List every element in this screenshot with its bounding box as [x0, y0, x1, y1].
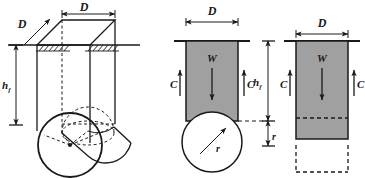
ground-hatching-left [36, 45, 70, 51]
panel-free-body-circular: D r W C C [170, 4, 276, 172]
dimension-width-top-left [62, 10, 115, 18]
cylinder-back-top-arc [62, 107, 114, 133]
cylinder-body [62, 127, 131, 163]
cylinder-center-dot [68, 143, 72, 147]
label-C-left-middle: C [170, 78, 178, 90]
prism-top-face [37, 20, 115, 45]
label-r-dimension-middle: r [272, 131, 276, 142]
label-W-right: W [317, 52, 328, 64]
label-hf-middle: hf [253, 76, 262, 91]
label-hf-left: hf [2, 79, 11, 94]
dimension-width-top-right [296, 30, 348, 38]
label-C-right-right: C [357, 78, 365, 90]
cylinder-hidden-radii [44, 131, 88, 145]
dimension-height-middle [262, 41, 275, 121]
engineering-diagram: D D hf D r W [0, 0, 365, 178]
panel-perspective-view: D D hf [2, 0, 140, 177]
label-D-top-middle: D [207, 4, 217, 18]
dimension-depth-oblique [24, 19, 50, 45]
dimension-width-top-middle [186, 18, 238, 26]
label-W-middle: W [207, 52, 218, 64]
label-D-top-left: D [79, 0, 89, 14]
prism-vertical-edges [37, 20, 115, 143]
dimension-height-left [9, 45, 23, 125]
label-D-top-right: D [317, 16, 327, 30]
figure-canvas: D D hf D r W [0, 0, 365, 178]
label-C-left-right: C [280, 78, 288, 90]
cylinder-axis-hidden [70, 127, 114, 145]
equivalent-dashed-box [296, 145, 348, 172]
cylinder-back-ellipse [62, 121, 114, 145]
panel-free-body-rectangular: D W C C [280, 16, 365, 172]
label-r-radius: r [216, 143, 220, 154]
label-D-oblique: D [17, 17, 27, 31]
